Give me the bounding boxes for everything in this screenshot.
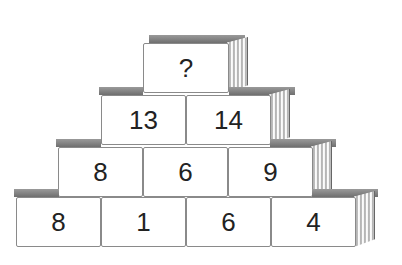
pyramid-cell: 8: [58, 147, 143, 197]
pyramid-cell: 6: [143, 147, 228, 197]
pyramid-row-3: 8 6 9: [58, 147, 313, 197]
pyramid-row-2: 13 14: [101, 95, 271, 145]
number-pyramid: ? 13 14 8 6 9 8 1 6 4: [0, 0, 402, 265]
pyramid-cell: 13: [101, 95, 186, 145]
pyramid-row-4: 8 1 6 4: [16, 197, 356, 247]
card-stack-top: [56, 139, 101, 147]
pyramid-cell: 9: [228, 147, 313, 197]
card-stack-edge: [354, 191, 375, 247]
card-stack-top: [99, 87, 143, 95]
pyramid-cell: 4: [271, 197, 356, 247]
pyramid-row-1: ?: [143, 43, 229, 93]
card-stack-top: [14, 189, 59, 197]
pyramid-cell: 8: [16, 197, 101, 247]
pyramid-cell: 14: [186, 95, 271, 145]
pyramid-cell: 1: [101, 197, 186, 247]
card-stack-edge: [269, 89, 290, 145]
card-stack-edge: [227, 37, 248, 93]
pyramid-cell: 6: [186, 197, 271, 247]
pyramid-cell-unknown: ?: [143, 43, 229, 93]
